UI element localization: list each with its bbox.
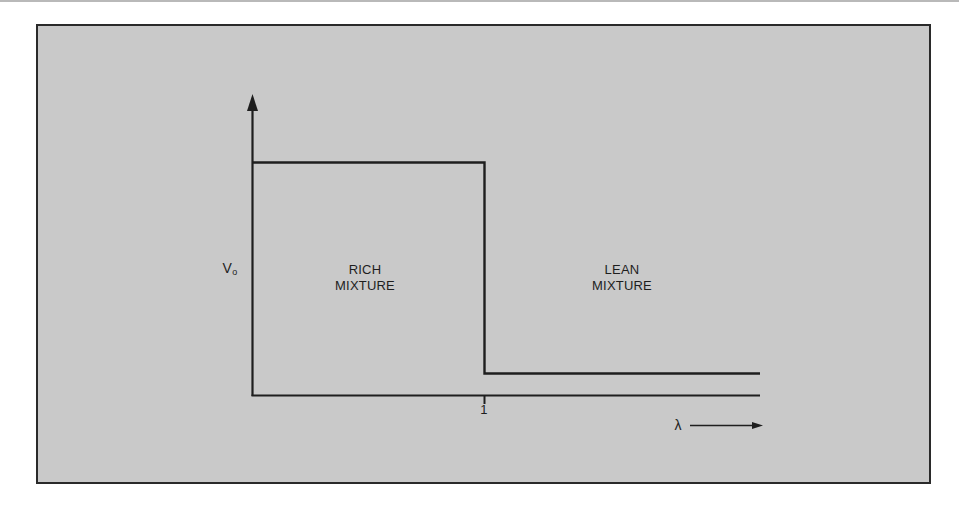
y-axis-label-main: V (223, 260, 233, 276)
lean-label-line2: MIXTURE (552, 278, 692, 294)
rich-mixture-label: RICH MIXTURE (295, 262, 435, 294)
step-plot (0, 0, 959, 508)
rich-label-line1: RICH (295, 262, 435, 278)
x-axis-label: λ (671, 417, 685, 433)
y-axis-label-subscript: o (232, 267, 237, 277)
rich-label-line2: MIXTURE (295, 278, 435, 294)
lean-label-line1: LEAN (552, 262, 692, 278)
x-tick-label: 1 (476, 402, 492, 418)
lambda-arrow-icon (752, 422, 763, 429)
y-axis-label: Vo (218, 260, 242, 280)
y-axis-arrow-icon (247, 94, 258, 111)
lean-mixture-label: LEAN MIXTURE (552, 262, 692, 294)
